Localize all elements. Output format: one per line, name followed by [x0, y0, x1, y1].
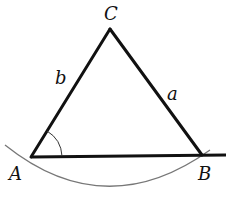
- angle-a-mark: [47, 131, 62, 156]
- vertex-label-a: A: [7, 163, 22, 184]
- side-c-ab: [31, 155, 226, 157]
- side-label-b: b: [55, 67, 67, 88]
- triangle-diagram: C A B b a: [0, 0, 226, 198]
- side-b-ac: [31, 29, 110, 157]
- vertex-label-c: C: [104, 3, 118, 24]
- side-label-a: a: [167, 83, 178, 104]
- side-a-cb: [110, 29, 202, 155]
- vertex-label-b: B: [197, 163, 211, 184]
